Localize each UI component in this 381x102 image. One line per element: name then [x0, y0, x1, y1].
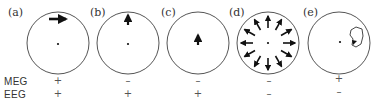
- diagram-canvas: [0, 0, 381, 102]
- panel-d-eeg-sign: –: [262, 88, 276, 99]
- panel-e-eeg-sign: –: [332, 86, 346, 97]
- panel-d-label: (d): [229, 6, 245, 19]
- panel-d-head: [237, 12, 299, 74]
- panel-b-head: [97, 12, 159, 74]
- panel-a-head: [27, 12, 89, 74]
- panel-a-meg-sign: +: [51, 75, 65, 86]
- panel-a-label: (a): [8, 6, 23, 19]
- panel-b-eeg-sign: +: [121, 88, 135, 99]
- eeg-row-label: EEG: [4, 89, 26, 100]
- panel-c-label: (c): [161, 6, 176, 19]
- panel-e-meg-sign: +: [332, 73, 346, 84]
- source-arrowhead-icon: [352, 40, 357, 45]
- panel-e-label: (e): [303, 6, 318, 19]
- panel-a-eeg-sign: +: [51, 88, 65, 99]
- panel-b-meg-sign: –: [121, 75, 135, 86]
- panel-d-meg-sign: –: [262, 75, 276, 86]
- panel-c-meg-sign: –: [191, 75, 205, 86]
- panel-e-head: [308, 12, 370, 74]
- closed-field-source-outline: [350, 27, 363, 47]
- panel-c-head: [167, 12, 229, 74]
- panel-b-label: (b): [90, 6, 106, 19]
- meg-row-label: MEG: [4, 76, 28, 87]
- panel-c-eeg-sign: +: [191, 88, 205, 99]
